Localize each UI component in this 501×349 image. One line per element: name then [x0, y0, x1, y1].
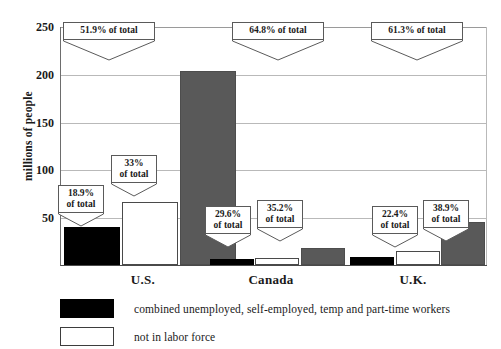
- bar-uk-combined: [350, 257, 394, 265]
- callout-uk-nilf-text: 38.9% of total: [423, 200, 469, 228]
- y-tick-50: 50: [14, 211, 54, 226]
- bar-canada-not-in-labor-force: [255, 258, 299, 265]
- y-axis-ticks: 250 200 150 100 50: [0, 0, 54, 349]
- callout-us-nilf-text: 33% of total: [111, 155, 157, 183]
- callout-us-combined: 18.9% of total: [58, 185, 104, 227]
- bar-us-combined: [64, 227, 120, 265]
- y-tick-100: 100: [14, 163, 54, 178]
- legend-label-not-in-labor-force: not in labor force: [134, 331, 215, 343]
- bar-us-not-in-labor-force: [122, 202, 178, 265]
- legend-label-combined: combined unemployed, self-employed, temp…: [134, 303, 450, 315]
- y-tick-250: 250: [14, 20, 54, 35]
- callout-tail-icon: [257, 227, 303, 242]
- x-axis-group-us: U.S.: [88, 272, 198, 288]
- legend-item-not-in-labor-force: not in labor force: [60, 327, 215, 346]
- callout-uk-total: 61.3% of total: [371, 22, 463, 61]
- callout-uk-nilf: 38.9% of total: [423, 200, 469, 242]
- callout-us-nilf: 33% of total: [111, 155, 157, 197]
- callout-us-total-text: 51.9% of total: [63, 22, 155, 40]
- callout-tail-icon: [423, 227, 469, 242]
- callout-uk-combined-text: 22.4% of total: [372, 206, 418, 234]
- y-tick-150: 150: [14, 115, 54, 130]
- gridline-200: [61, 75, 487, 76]
- gridline-150: [61, 123, 487, 124]
- callout-uk-combined: 22.4% of total: [372, 206, 418, 248]
- callout-tail-icon: [232, 39, 324, 61]
- bar-canada-total: [301, 248, 345, 265]
- callout-canada-nilf: 35.2% of total: [257, 200, 303, 242]
- callout-tail-icon: [58, 212, 104, 227]
- plot-right-border: [486, 27, 487, 265]
- legend-swatch-black-icon: [60, 299, 114, 318]
- callout-us-total: 51.9% of total: [63, 22, 155, 61]
- callout-canada-total-text: 64.8% of total: [232, 22, 324, 40]
- bar-uk-not-in-labor-force: [396, 251, 440, 265]
- callout-uk-total-text: 61.3% of total: [371, 22, 463, 40]
- bar-chart: millions of people 250 200 150 100 50 51…: [0, 0, 501, 349]
- legend-item-combined: combined unemployed, self-employed, temp…: [60, 299, 450, 318]
- callout-tail-icon: [111, 182, 157, 197]
- callout-canada-total: 64.8% of total: [232, 22, 324, 61]
- callout-canada-nilf-text: 35.2% of total: [257, 200, 303, 228]
- x-axis-group-uk: U.K.: [358, 272, 468, 288]
- y-tick-200: 200: [14, 67, 54, 82]
- callout-tail-icon: [205, 233, 251, 248]
- callout-us-combined-text: 18.9% of total: [58, 185, 104, 213]
- callout-tail-icon: [371, 39, 463, 61]
- x-axis-group-canada: Canada: [216, 272, 326, 288]
- bar-canada-combined: [210, 259, 254, 265]
- callout-canada-combined-text: 29.6% of total: [205, 206, 251, 234]
- callout-tail-icon: [372, 233, 418, 248]
- callout-canada-combined: 29.6% of total: [205, 206, 251, 248]
- legend-swatch-white-icon: [60, 327, 114, 346]
- callout-tail-icon: [63, 39, 155, 61]
